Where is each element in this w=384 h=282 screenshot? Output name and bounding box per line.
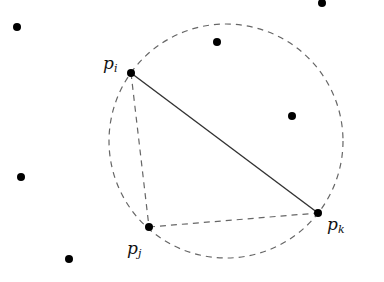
label-pk: pk [327, 214, 345, 236]
point-1 [13, 23, 21, 31]
delaunay-diagram: pi pj pk [0, 0, 384, 282]
point-4 [288, 112, 296, 120]
point-3 [213, 38, 221, 46]
point-pj [145, 223, 153, 231]
point-pi [127, 69, 135, 77]
point-6 [65, 255, 73, 263]
label-pi: pi [103, 53, 117, 75]
point-5 [17, 173, 25, 181]
edge-pi-pj [131, 73, 149, 227]
point-2 [318, 0, 326, 7]
circumcircle [109, 24, 343, 258]
edge-pi-pk [131, 73, 318, 213]
label-pj: pj [127, 238, 142, 260]
edge-pj-pk [149, 213, 318, 227]
point-pk [314, 209, 322, 217]
